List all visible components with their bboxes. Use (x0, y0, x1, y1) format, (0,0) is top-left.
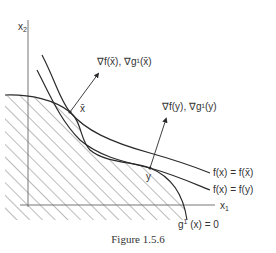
gradient-arrow-y (150, 119, 166, 168)
gradient-label-y: ∇f(y), ∇g¹(y) (162, 102, 217, 112)
x-bar-label: x̄ (80, 104, 85, 114)
figure-caption: Figure 1.5.6 (0, 233, 276, 245)
gradient-label-x-bar: ∇f(x̄), ∇g¹(x̄) (97, 57, 152, 67)
contour-label-lower: f(x) = f(y) (213, 185, 253, 195)
feasible-region-hatch (0, 0, 276, 253)
figure-1-5-6: x2 x1 x̄ y ∇f(x̄), ∇g¹(x̄) ∇f(y), ∇g¹(y)… (0, 0, 276, 253)
diagram-canvas (0, 0, 276, 253)
point-y (148, 166, 151, 169)
x1-axis-label: x1 (220, 201, 229, 212)
x2-axis-label: x2 (18, 22, 27, 33)
point-x-bar (68, 110, 71, 113)
y-label: y (146, 172, 151, 182)
constraint-label: g1 (x) = 0 (178, 218, 219, 230)
contour-label-upper: f(x) = f(x̄) (213, 168, 253, 178)
